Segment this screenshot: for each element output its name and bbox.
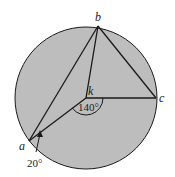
inscribed-angle-label: 20° (27, 157, 42, 169)
point-label-b: b (95, 10, 101, 24)
point-label-c: c (159, 91, 165, 105)
geometry-diagram: b c a k 140° 20° (0, 0, 175, 177)
central-angle-label: 140° (78, 101, 99, 113)
point-label-k: k (88, 84, 94, 98)
point-label-a: a (19, 139, 25, 153)
